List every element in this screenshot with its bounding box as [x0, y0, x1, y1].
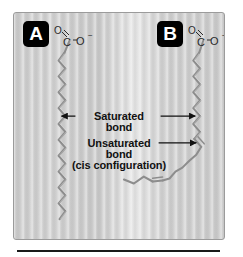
figure-frame: A B O C O − O C O − Saturated bond Unsat…	[13, 12, 225, 240]
annotation-saturated-line2: bond	[81, 122, 157, 133]
bottom-divider-rule	[17, 250, 220, 252]
panel-badge-a: A	[23, 21, 49, 47]
panel-badge-b: B	[157, 21, 183, 47]
carboxylate-b-bonds	[188, 25, 225, 51]
chain-a-saturated	[59, 52, 67, 219]
annotation-saturated-bond: Saturated bond	[81, 111, 157, 133]
carboxylate-group-a: O C O −	[54, 25, 104, 51]
carboxylate-a-bonds	[54, 25, 104, 51]
carboxylate-group-b: O C O −	[188, 25, 225, 51]
annotation-unsaturated-line3: (cis configuration)	[68, 160, 170, 171]
annotation-unsaturated-bond: Unsaturated bond (cis configuration)	[68, 138, 170, 171]
